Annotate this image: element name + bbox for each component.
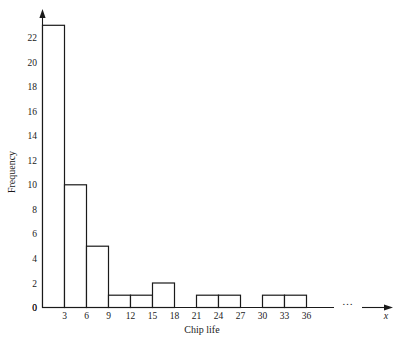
x-tick-label: 18	[170, 311, 180, 321]
histogram-figure: … x 0 2 4 6 8	[0, 0, 396, 337]
chart-canvas: … x 0 2 4 6 8	[0, 0, 396, 337]
y-tick-label: 18	[28, 82, 38, 92]
x-tick-label: 15	[148, 311, 158, 321]
x-tick-label: 24	[214, 311, 224, 321]
histogram-bar	[263, 295, 285, 307]
x-tick-label: 30	[258, 311, 268, 321]
x-tick-label: 27	[236, 311, 246, 321]
x-axis-title: Chip life	[184, 324, 220, 335]
histogram-bar	[131, 295, 153, 307]
x-tick-label: 36	[302, 311, 312, 321]
x-tick-label: 9	[106, 311, 111, 321]
x-tick-label: 21	[192, 311, 202, 321]
y-tick-label: 14	[28, 131, 38, 141]
y-tick-label: 2	[32, 279, 37, 289]
histogram-bar	[219, 295, 241, 307]
x-tick-label: 3	[62, 311, 67, 321]
origin-label: 0	[32, 303, 37, 313]
x-tick-label: 33	[280, 311, 290, 321]
histogram-bar	[65, 185, 87, 308]
y-tick-label: 16	[28, 107, 38, 117]
y-tick-label: 20	[28, 58, 38, 68]
x-tick-label: 12	[126, 311, 136, 321]
y-axis-title: Frequency	[6, 151, 17, 193]
histogram-bar	[87, 246, 109, 307]
y-tick-label: 22	[28, 33, 38, 43]
histogram-bar	[285, 295, 307, 307]
y-tick-label: 12	[28, 156, 38, 166]
y-tick-label: 8	[32, 205, 37, 215]
x-axis-variable-label: x	[383, 310, 389, 321]
axis-break-ellipsis: …	[342, 295, 354, 307]
bar-group	[43, 25, 307, 307]
histogram-bar	[153, 283, 175, 308]
histogram-bar	[43, 25, 65, 307]
histogram-bar	[109, 295, 131, 307]
y-tick-label: 6	[32, 229, 37, 239]
y-tick-label: 10	[28, 180, 38, 190]
y-axis-arrow-icon	[39, 9, 45, 18]
x-tick-label: 6	[84, 311, 89, 321]
histogram-bar	[197, 295, 219, 307]
y-tick-label: 4	[32, 254, 37, 264]
